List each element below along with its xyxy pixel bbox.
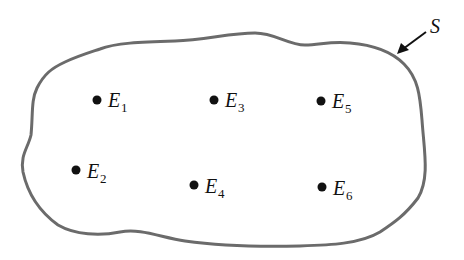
point-label-letter: E xyxy=(86,160,99,182)
dot-icon xyxy=(318,183,327,192)
point-label-letter: E xyxy=(204,175,217,197)
dot-icon xyxy=(190,181,199,190)
point-label-subscript: 4 xyxy=(218,186,225,201)
dot-icon xyxy=(317,97,326,106)
point-label-subscript: 1 xyxy=(121,100,128,115)
point-e5: E 5 xyxy=(317,90,352,116)
point-label-subscript: 2 xyxy=(100,171,107,186)
point-e2: E 2 xyxy=(72,160,107,186)
boundary-label-s: S xyxy=(430,15,440,37)
point-label-letter: E xyxy=(107,89,120,111)
point-label-subscript: 5 xyxy=(345,101,352,116)
point-label-letter: E xyxy=(224,89,237,111)
point-label-letter: E xyxy=(332,177,345,199)
point-label-letter: E xyxy=(331,90,344,112)
point-e1: E 1 xyxy=(93,89,128,115)
dot-icon xyxy=(210,96,219,105)
point-e4: E 4 xyxy=(190,175,226,201)
point-label-subscript: 6 xyxy=(346,188,353,203)
boundary-pointer-arrow xyxy=(397,32,426,54)
point-label-subscript: 3 xyxy=(238,100,245,115)
sample-space-diagram: S E 1 E 2 E 3 E 4 E 5 E 6 xyxy=(0,0,464,260)
point-e6: E 6 xyxy=(318,177,354,203)
point-e3: E 3 xyxy=(210,89,245,115)
dot-icon xyxy=(72,166,81,175)
boundary-curve-s xyxy=(22,33,425,246)
dot-icon xyxy=(93,96,102,105)
arrow-head-icon xyxy=(397,43,409,54)
